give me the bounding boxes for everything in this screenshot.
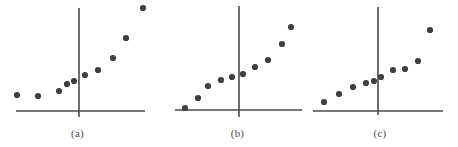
- panel-label-c: (c): [305, 127, 455, 139]
- scatter-figure: (a) (b) (c): [0, 0, 458, 147]
- chart-panel-c: (c): [0, 0, 458, 147]
